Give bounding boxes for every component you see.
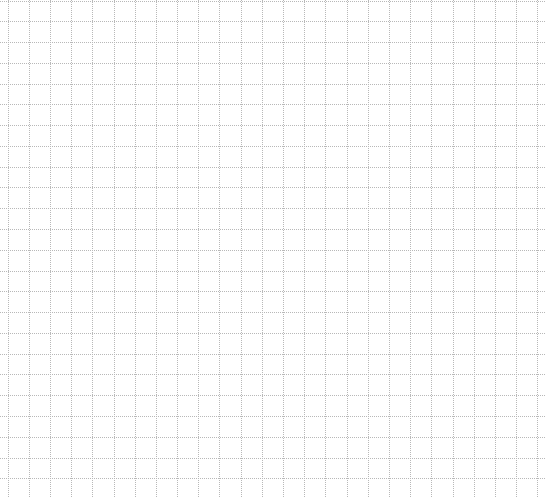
- dotted-grid: [0, 0, 545, 497]
